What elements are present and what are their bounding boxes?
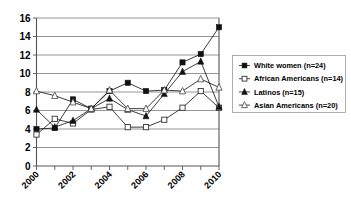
series-line (37, 61, 220, 127)
data-point-marker (34, 132, 39, 137)
legend-label: Latinos (n=15) (254, 88, 305, 97)
y-tick-label: 12 (19, 50, 31, 61)
data-point-marker (143, 125, 148, 130)
y-tick-label: 14 (19, 31, 31, 42)
y-tick-label: 4 (25, 124, 31, 135)
data-point-marker (33, 87, 39, 93)
data-point-marker (70, 117, 76, 123)
data-point-marker (179, 68, 185, 74)
data-point-marker (198, 88, 203, 93)
data-point-marker (180, 105, 185, 110)
y-tick-label: 16 (19, 13, 31, 24)
y-tick-label: 0 (25, 161, 31, 172)
series-line (37, 27, 220, 129)
data-point-marker (143, 88, 148, 93)
data-point-marker (216, 84, 222, 90)
legend-item: Asian Americans (n=20) (239, 101, 338, 110)
y-tick-label: 10 (19, 68, 31, 79)
line-chart: 0246810121416 200020022004200620082010 W… (0, 0, 351, 219)
data-point-marker (198, 51, 203, 56)
data-point-marker (33, 106, 39, 112)
y-tick-label: 2 (25, 142, 31, 153)
data-point-marker (125, 80, 130, 85)
x-tick-label: 2002 (56, 169, 77, 190)
legend-label: African Americans (n=14) (254, 74, 344, 83)
series-open-circle (34, 88, 222, 137)
data-point-marker (198, 75, 204, 81)
data-point-marker (34, 126, 39, 131)
data-point-marker (125, 125, 130, 130)
x-axis-labels: 200020022004200620082010 (20, 169, 224, 190)
chart-legend: White women (n=24)African Americans (n=1… (233, 56, 346, 113)
series-filled-square (34, 25, 222, 132)
data-point-marker (106, 95, 112, 101)
y-axis-labels: 0246810121416 (19, 13, 31, 172)
x-tick-label: 2008 (166, 169, 187, 190)
legend-item: African Americans (n=14) (239, 74, 344, 83)
x-tick-label: 2000 (20, 169, 41, 190)
x-axis-ticks (37, 166, 220, 170)
data-point-marker (107, 104, 112, 109)
data-point-marker (242, 63, 247, 68)
legend-label: Asian Americans (n=20) (254, 101, 338, 110)
x-tick-label: 2004 (93, 169, 114, 190)
data-point-marker (162, 117, 167, 122)
data-point-marker (198, 58, 204, 64)
y-tick-label: 8 (25, 87, 31, 98)
chart-canvas: 0246810121416 200020022004200620082010 W… (0, 0, 351, 219)
data-point-marker (242, 76, 247, 81)
data-point-marker (52, 116, 57, 121)
series-filled-triangle (33, 58, 222, 130)
series-layer (33, 25, 222, 137)
y-tick-label: 6 (25, 105, 31, 116)
x-tick-label: 2006 (129, 169, 150, 190)
data-point-marker (180, 60, 185, 65)
data-point-marker (216, 25, 221, 30)
legend-label: White women (n=24) (254, 61, 326, 70)
x-tick-label: 2010 (202, 169, 223, 190)
